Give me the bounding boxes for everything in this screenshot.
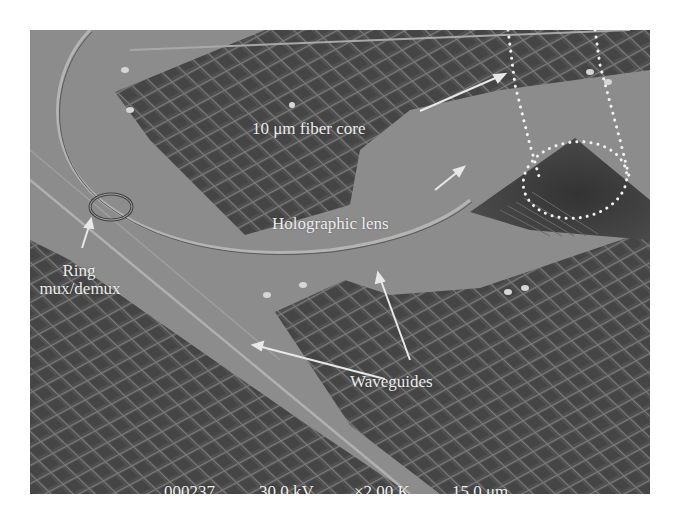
label-ring: Ring <box>44 262 114 281</box>
label-mux-demux: mux/demux <box>30 280 130 299</box>
scale-bar-value: 15.0 μm <box>452 482 508 494</box>
sem-micrograph: 10 μm fiber core Holographic lens Ring m… <box>30 30 650 494</box>
label-fiber-core: 10 μm fiber core <box>252 120 365 139</box>
label-holographic-lens: Holographic lens <box>272 215 389 234</box>
magnification: ×2.00 K <box>354 482 410 494</box>
accelerating-voltage: 30.0 kV <box>259 482 314 494</box>
image-number: 000237 <box>164 482 215 494</box>
label-waveguides: Waveguides <box>350 373 433 392</box>
micrograph-scene <box>30 30 650 494</box>
